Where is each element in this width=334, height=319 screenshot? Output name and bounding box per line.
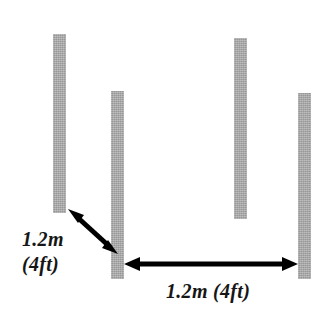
post-1 bbox=[53, 34, 66, 213]
left-dimension-metric-label: 1.2m bbox=[22, 228, 64, 251]
post-2 bbox=[111, 91, 124, 279]
bottom-dimension-label: 1.2m (4ft) bbox=[166, 280, 250, 303]
fence-spacing-diagram: 1.2m (4ft) 1.2m (4ft) bbox=[0, 0, 334, 319]
horizontal-dimension-arrow bbox=[124, 257, 298, 271]
post-4 bbox=[298, 93, 311, 279]
left-dimension-imperial-label: (4ft) bbox=[22, 253, 59, 276]
post-3 bbox=[234, 38, 247, 219]
